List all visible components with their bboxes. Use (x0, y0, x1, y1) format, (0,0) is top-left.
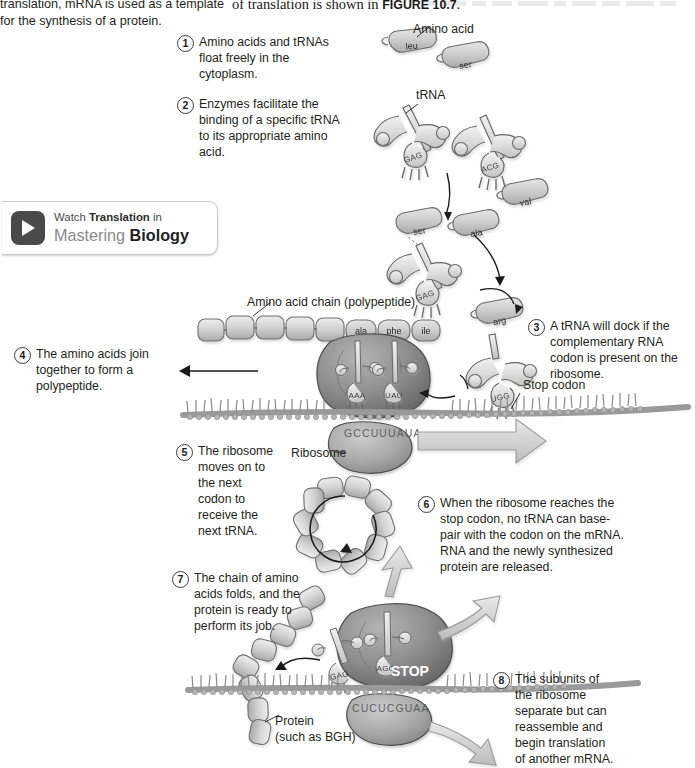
arrow-down-1 (446, 173, 450, 215)
svg-text:ile: ile (421, 326, 430, 336)
play-icon[interactable] (11, 211, 45, 245)
step-6-number: 6 (418, 496, 435, 513)
amino-acid-ala-free: ala (448, 210, 499, 239)
step-6-text: When the ribosome reaches the stop codon… (440, 495, 626, 575)
promo-line-2: Mastering Biology (54, 226, 189, 245)
step-5: 5 The ribosome moves on to the next codo… (176, 443, 276, 540)
step-7-text: The chain of amino acids folds, and the … (194, 570, 300, 634)
arrow-dock (427, 394, 455, 398)
step-5-number: 5 (176, 444, 193, 461)
step-6: 6 When the ribosome reaches the stop cod… (418, 495, 626, 575)
figure-reference: FIGURE 10.7 (382, 0, 456, 12)
polypeptide-residue-ile: ile (412, 320, 440, 341)
step-8: 8 The subunits of the ribosome separate … (493, 671, 618, 768)
promo-in-label: in (150, 211, 162, 223)
step-2-number: 2 (177, 97, 194, 114)
label-stop-codon: Stop codon (523, 378, 585, 394)
intro-text-right: of translation is shown in FIGURE 10.7. (232, 0, 695, 15)
svg-text:phe: phe (386, 326, 401, 336)
trna-free-right: ACG (452, 115, 526, 190)
label-trna: tRNA (416, 88, 445, 104)
label-amino-acid: Amino acid (413, 22, 474, 38)
step-3-number: 3 (528, 319, 545, 336)
step-5-text: The ribosome moves on to the next codon … (198, 443, 276, 540)
step-3: 3 A tRNA will dock if the complementary … (528, 318, 691, 382)
motion-arrow-subunit-up (438, 596, 500, 640)
step-4-text: The amino acids join together to form a … (36, 346, 184, 394)
svg-text:ser: ser (458, 59, 472, 71)
step-4-number: 4 (14, 347, 31, 364)
label-ribosome: Ribosome (291, 446, 346, 462)
svg-text:ser: ser (412, 225, 426, 237)
motion-arrow-up (382, 546, 412, 597)
polypeptide-chain (198, 316, 344, 341)
step-7: 7 The chain of amino acids folds, and th… (172, 570, 300, 634)
label-amino-acid-chain: Amino acid chain (polypeptide) (247, 295, 415, 311)
step-8-text: The subunits of the ribosome separate bu… (515, 671, 618, 768)
label-protein-line2: (such as BGH) (275, 730, 356, 746)
promo-brand-bold: Biology (130, 226, 189, 244)
amino-acid-ser-charged: ser (396, 208, 442, 237)
svg-text:leu: leu (405, 41, 418, 52)
svg-text:UAU: UAU (385, 391, 403, 400)
ribosome-upper (317, 334, 430, 418)
trna-free-left: GAG (374, 105, 450, 180)
motion-arrow-right (418, 419, 546, 463)
promo-text-block: Watch Translation in Mastering Biology (54, 211, 189, 244)
step-7-number: 7 (172, 571, 189, 588)
intro-right-suffix: . (457, 0, 461, 12)
promo-topic: Translation (89, 211, 150, 223)
step-2: 2 Enzymes facilitate the binding of a sp… (177, 96, 345, 160)
step-3-text: A tRNA will dock if the complementary RN… (550, 318, 691, 382)
mastering-biology-promo[interactable]: Watch Translation in Mastering Biology (2, 201, 218, 255)
motion-arrow-subunit-down (429, 722, 496, 765)
promo-brand-light: Mastering (54, 226, 130, 244)
step-4: 4 The amino acids join together to form … (14, 346, 184, 394)
promo-line-1: Watch Translation in (54, 211, 189, 225)
mrna-sequence-upper-text: GCCUUUAUA (344, 427, 422, 439)
svg-text:arg: arg (492, 315, 507, 327)
folded-protein-ring (291, 475, 397, 577)
amino-acid-ser-free: ser (437, 42, 489, 71)
step-8-number: 8 (493, 672, 510, 689)
mrna-sequence-lower-text: CUCUCGUAA (352, 702, 430, 714)
arrow-curve-2 (474, 235, 500, 279)
svg-text:val: val (519, 196, 532, 208)
svg-text:AAA: AAA (348, 391, 365, 400)
step-1-text: Amino acids and tRNAs float freely in th… (199, 34, 345, 82)
stop-codon-label-text: STOP (391, 663, 429, 679)
trna-incoming-arg: UGG (466, 334, 537, 419)
promo-watch-label: Watch (54, 211, 89, 223)
label-protein-line1: Protein (275, 714, 314, 730)
arrow-fold (280, 658, 320, 668)
intro-right-prefix: of translation is shown in (232, 0, 382, 12)
step-1: 1 Amino acids and tRNAs float freely in … (177, 34, 345, 82)
amino-acid-arg: arg (471, 298, 523, 327)
step-2-text: Enzymes facilitate the binding of a spec… (199, 96, 345, 160)
step-1-number: 1 (177, 35, 194, 52)
intro-text-left: translation, mRNA is used as a template … (0, 0, 232, 29)
